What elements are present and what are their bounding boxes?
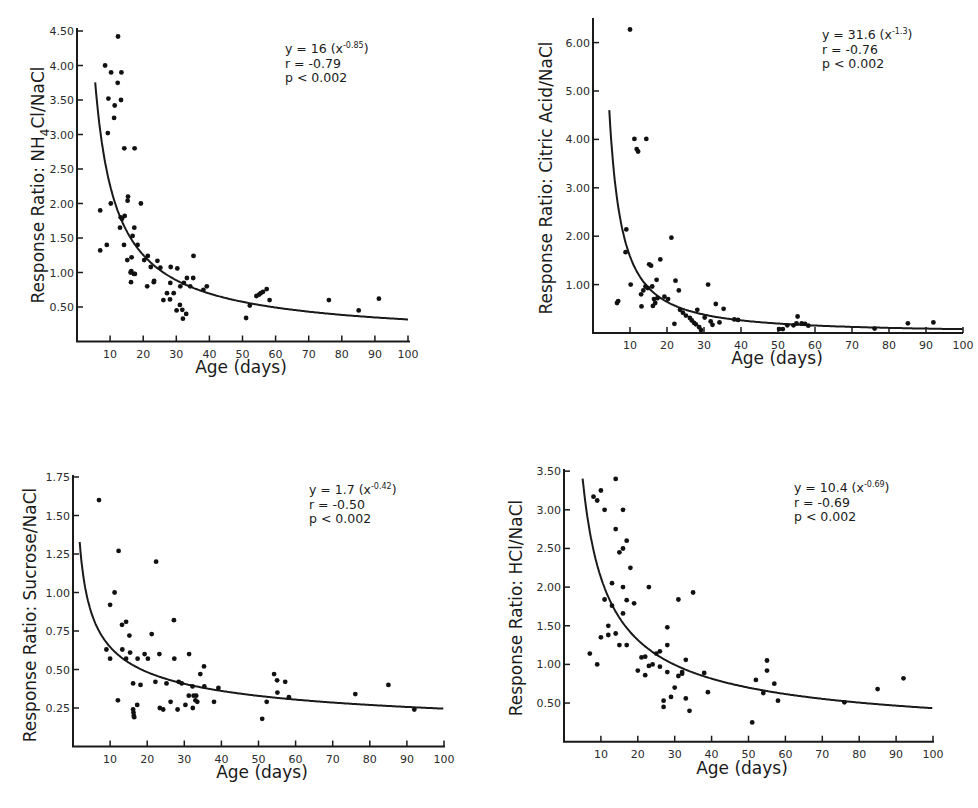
data-point [624, 643, 629, 648]
data-point [602, 507, 607, 512]
correlation-r: r = -0.69 [794, 495, 850, 510]
data-point [785, 323, 790, 328]
data-point [710, 322, 715, 327]
data-point [650, 284, 655, 289]
p-value: p < 0.002 [285, 70, 347, 85]
fit-equation: y = 10.4 (x-0.69) [794, 480, 890, 495]
data-point [109, 70, 114, 75]
data-point [706, 282, 711, 287]
data-point [595, 498, 600, 503]
y-tick-label: 4.00 [566, 133, 591, 146]
data-point [171, 291, 176, 296]
data-point [204, 284, 209, 289]
data-point [645, 286, 650, 291]
data-point [116, 549, 121, 554]
data-point [190, 684, 195, 689]
data-point [794, 321, 799, 326]
y-tick-label: 1.00 [46, 587, 71, 600]
y-axis-label: Response Ratio: NH4Cl/NaCl [28, 66, 52, 303]
chart-citric-acid: 1020304050607080901001.002.003.004.005.0… [536, 18, 974, 368]
data-point [168, 699, 173, 704]
fit-curve [583, 479, 933, 708]
y-tick-label: 1.50 [537, 620, 562, 633]
data-point [639, 304, 644, 309]
data-point [115, 80, 120, 85]
correlation-r: r = -0.76 [822, 42, 878, 57]
data-point [591, 494, 596, 499]
data-point [617, 643, 622, 648]
x-tick-label: 100 [398, 348, 419, 361]
data-point [139, 201, 144, 206]
data-point [699, 328, 704, 333]
y-tick-label: 1.50 [50, 232, 75, 245]
data-point [386, 683, 391, 688]
x-tick-label: 90 [368, 348, 382, 361]
x-tick-label: 20 [631, 748, 645, 761]
correlation-r: r = -0.79 [285, 56, 341, 71]
data-point [587, 651, 592, 656]
y-tick-label: 0.50 [50, 301, 75, 314]
data-point [717, 320, 722, 325]
y-axis-label: Response Ratio: Sucrose/NaCl [20, 488, 40, 743]
y-tick-label: 0.50 [46, 664, 71, 677]
data-point [172, 618, 177, 623]
data-point [106, 96, 111, 101]
data-point [125, 198, 130, 203]
data-point [264, 699, 269, 704]
data-point [636, 149, 641, 154]
data-point [806, 323, 811, 328]
y-tick-label: 0.50 [537, 697, 562, 710]
data-point [125, 258, 130, 263]
data-point [164, 681, 169, 686]
x-tick-label: 10 [103, 753, 117, 766]
data-point [175, 707, 180, 712]
data-point [175, 266, 180, 271]
data-point [146, 656, 151, 661]
data-point [610, 581, 615, 586]
data-point [872, 326, 877, 331]
data-point [168, 265, 173, 270]
x-tick-label: 10 [103, 348, 117, 361]
data-point [119, 98, 124, 103]
data-point [120, 622, 125, 627]
y-tick-label: 1.00 [537, 658, 562, 671]
data-point [628, 282, 633, 287]
data-point [97, 498, 102, 503]
data-point [174, 308, 179, 313]
data-point [124, 619, 129, 624]
y-tick-label: 5.00 [566, 85, 591, 98]
data-point [130, 234, 135, 239]
data-point [202, 664, 207, 669]
data-point [108, 602, 113, 607]
data-point [606, 633, 611, 638]
data-point [98, 248, 103, 253]
data-point [187, 652, 192, 657]
x-tick-label: 20 [136, 348, 150, 361]
data-point [212, 699, 217, 704]
data-point [148, 265, 153, 270]
data-point [104, 647, 109, 652]
data-point [377, 296, 382, 301]
x-tick-label: 100 [953, 339, 974, 352]
data-point [765, 668, 770, 673]
data-point [186, 693, 191, 698]
data-point [721, 306, 726, 311]
data-point [283, 679, 288, 684]
data-point [628, 27, 633, 32]
data-point [658, 664, 663, 669]
fit-equation: y = 31.6 (x-1.3) [822, 27, 912, 42]
data-point [184, 312, 189, 317]
fit-equation: y = 1.7 (x-0.42) [309, 482, 397, 497]
chart-sucrose: 1020304050607080901000.250.500.751.001.2… [20, 471, 455, 782]
x-axis-label: Age (days) [696, 758, 788, 778]
data-point [676, 288, 681, 293]
data-point [875, 687, 880, 692]
data-point [621, 611, 626, 616]
data-point [165, 291, 170, 296]
chart-hcl: 1020304050607080901000.501.001.502.002.5… [506, 465, 944, 778]
x-tick-label: 90 [919, 339, 933, 352]
data-point [129, 280, 134, 285]
data-point [623, 250, 628, 255]
data-point [275, 678, 280, 683]
data-point [647, 585, 652, 590]
